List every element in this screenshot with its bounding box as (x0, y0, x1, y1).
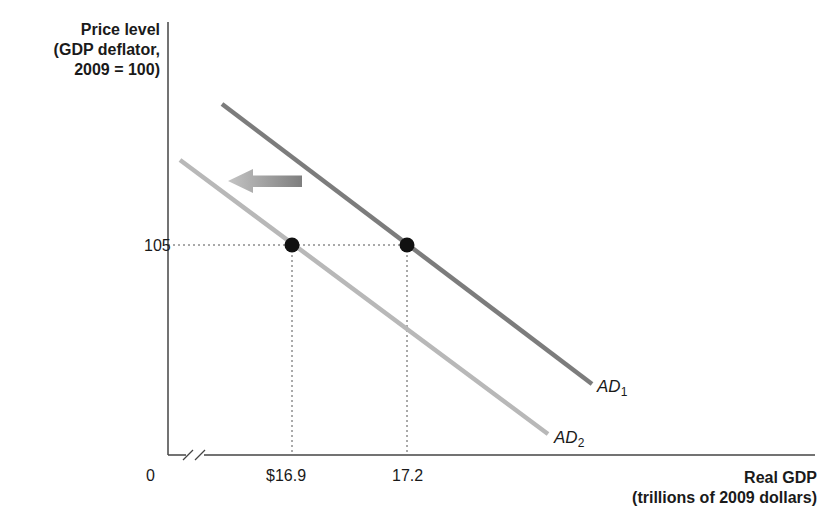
x-axis-title: Real GDP (trillions of 2009 dollars) (632, 468, 817, 508)
label-ad1-main: AD (597, 377, 621, 396)
shift-left-arrow-icon (228, 169, 302, 193)
x-tick-16-9: $16.9 (266, 467, 306, 485)
point-ad1-equilibrium (400, 238, 415, 253)
label-ad2-sub: 2 (578, 436, 585, 450)
y-tick-105: 105 (144, 237, 171, 255)
axis-break-icon (183, 449, 205, 461)
origin-label: 0 (146, 467, 155, 485)
x-tick-17-2: 17.2 (392, 467, 423, 485)
label-ad2-main: AD (554, 428, 578, 447)
point-ad2-equilibrium (285, 238, 300, 253)
label-ad1: AD1 (597, 378, 627, 401)
chart-plot-area (0, 0, 837, 520)
label-ad1-sub: 1 (621, 385, 628, 399)
label-ad2: AD2 (554, 429, 584, 452)
curve-ad2 (180, 160, 548, 434)
x-axis-title-line-1: Real GDP (632, 468, 817, 488)
x-axis-title-line-2: (trillions of 2009 dollars) (632, 488, 817, 508)
